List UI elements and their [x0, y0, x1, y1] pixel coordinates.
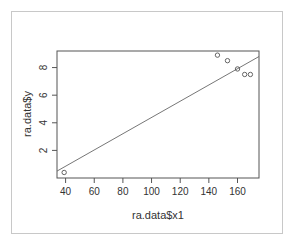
- x-axis: 406080100120140160: [60, 178, 246, 197]
- data-point: [248, 72, 252, 76]
- y-tick-label: 2: [38, 147, 49, 153]
- data-point: [242, 72, 246, 76]
- scatter-plot: 406080100120140160 2468 ra.data$x1 ra.da…: [0, 0, 292, 243]
- y-axis: 2468: [38, 64, 57, 153]
- x-tick-label: 40: [60, 186, 72, 197]
- x-tick-label: 100: [143, 186, 160, 197]
- y-tick-label: 8: [38, 64, 49, 70]
- plot-box: [57, 51, 259, 178]
- y-tick-label: 6: [38, 92, 49, 98]
- x-tick-label: 140: [201, 186, 218, 197]
- y-axis-label: ra.data$y: [21, 91, 33, 137]
- x-axis-label: ra.data$x1: [132, 209, 184, 221]
- x-tick-label: 60: [89, 186, 101, 197]
- data-point: [215, 53, 219, 57]
- regression-line: [57, 57, 259, 172]
- x-tick-label: 80: [117, 186, 129, 197]
- data-point: [62, 170, 66, 174]
- y-tick-label: 4: [38, 120, 49, 126]
- data-point: [225, 58, 229, 62]
- x-tick-label: 160: [229, 186, 246, 197]
- x-tick-label: 120: [172, 186, 189, 197]
